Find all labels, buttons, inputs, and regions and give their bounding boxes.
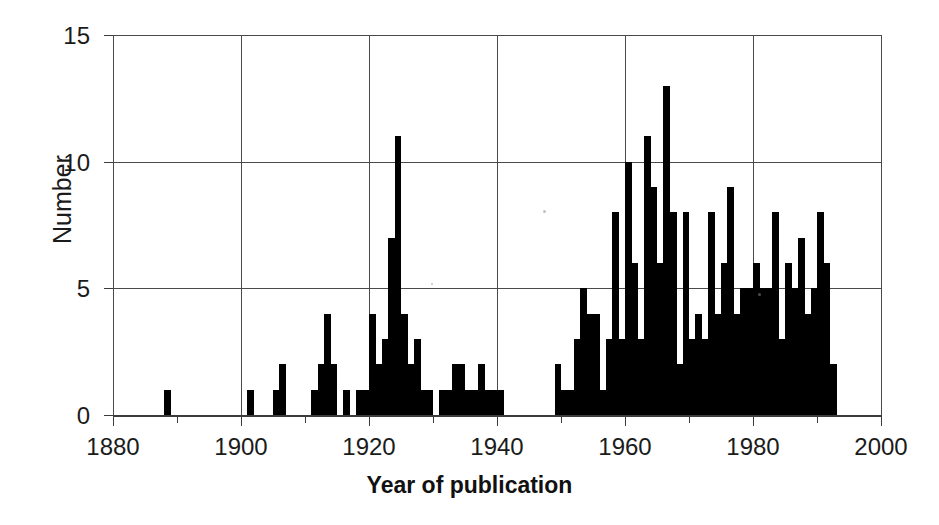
x-axis-title: Year of publication — [0, 472, 939, 499]
x-minor-tick-1990 — [817, 415, 818, 423]
x-tick-label-1960: 1960 — [598, 433, 651, 461]
x-tick-1980 — [753, 415, 754, 426]
speckle-1 — [758, 293, 761, 296]
bar-1992 — [830, 364, 837, 415]
y-tick-label-10: 10 — [63, 149, 90, 177]
x-tick-1920 — [369, 415, 370, 426]
x-tick-label-2000: 2000 — [854, 433, 907, 461]
x-minor-tick-1910 — [305, 415, 306, 423]
x-tick-1960 — [625, 415, 626, 426]
x-tick-1940 — [497, 415, 498, 426]
x-tick-label-1980: 1980 — [726, 433, 779, 461]
x-tick-label-1940: 1940 — [470, 433, 523, 461]
bar-1916 — [343, 390, 350, 415]
x-tick-1900 — [241, 415, 242, 426]
x-minor-tick-1930 — [433, 415, 434, 423]
x-tick-label-1900: 1900 — [214, 433, 267, 461]
x-minor-tick-1970 — [689, 415, 690, 423]
x-tick-label-1920: 1920 — [342, 433, 395, 461]
x-minor-tick-1890 — [177, 415, 178, 423]
x-tick-1880 — [113, 415, 114, 426]
speckle-0 — [543, 210, 546, 213]
y-tick-15: 15 — [104, 35, 113, 36]
gridline-x-2000 — [881, 35, 882, 415]
bar-1901 — [247, 390, 254, 415]
plot-area: 051015 1880190019201940196019802000 — [113, 35, 881, 415]
y-tick-10: 10 — [104, 162, 113, 163]
y-tick-0: 0 — [104, 415, 113, 416]
x-tick-2000 — [881, 415, 882, 426]
bar-1914 — [331, 364, 338, 415]
bar-1888 — [164, 390, 171, 415]
histogram-chart: Number Year of publication 051015 188019… — [0, 0, 939, 525]
x-tick-label-1880: 1880 — [86, 433, 139, 461]
y-tick-label-15: 15 — [63, 22, 90, 50]
x-minor-tick-1950 — [561, 415, 562, 423]
bar-1940 — [497, 390, 504, 415]
y-tick-5: 5 — [104, 288, 113, 289]
y-tick-label-0: 0 — [77, 402, 90, 430]
y-tick-label-5: 5 — [77, 275, 90, 303]
speckle-2 — [431, 283, 433, 285]
bar-1906 — [279, 364, 286, 415]
bars-layer — [113, 35, 881, 415]
y-axis-title: Number — [48, 120, 77, 280]
bar-1929 — [427, 390, 434, 415]
